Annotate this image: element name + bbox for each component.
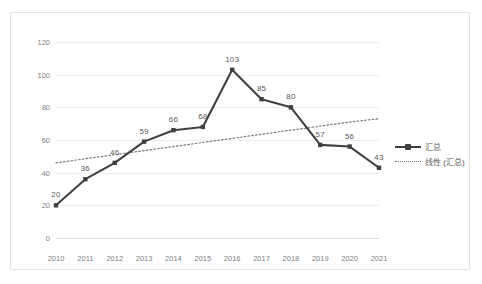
x-axis-tick-label: 2012 [106, 254, 123, 263]
x-axis-tick-label: 2010 [48, 254, 65, 263]
x-axis-tick-labels: 2010201120122013201420152016201720182019… [56, 254, 379, 268]
legend-item-trendline[interactable]: 线性 (汇总) [395, 154, 481, 169]
x-axis-tick-label: 2011 [77, 254, 93, 263]
x-axis-tick-label: 2013 [136, 254, 153, 263]
data-point-label: 103 [225, 55, 239, 64]
series-plot [56, 42, 379, 238]
x-axis-tick-label: 2018 [283, 254, 300, 263]
y-axis-tick-label: 20 [42, 201, 50, 210]
data-point-marker [230, 68, 234, 72]
legend-item-total[interactable]: 汇总 [395, 139, 481, 154]
chart-container[interactable]: 020406080100120 203646596668103858057564… [10, 12, 470, 270]
x-axis-tick-label: 2016 [224, 254, 241, 263]
y-axis-tick-label: 100 [37, 70, 50, 79]
legend-item-label: 线性 (汇总) [425, 156, 465, 167]
y-axis-tick-label: 120 [37, 38, 50, 47]
series-markers [54, 68, 381, 208]
data-point-marker [289, 105, 293, 109]
data-point-label: 46 [110, 148, 119, 157]
legend-item-label: 汇总 [425, 141, 441, 152]
x-axis-tick-label: 2021 [371, 254, 388, 263]
legend-dotted-line-icon [395, 157, 421, 167]
data-point-marker [83, 177, 87, 181]
data-point-marker [318, 143, 322, 147]
data-point-label: 80 [286, 92, 295, 101]
trendline-linear-total [56, 119, 379, 163]
data-point-label: 57 [316, 130, 325, 139]
data-point-marker [347, 144, 351, 148]
x-axis-tick-label: 2014 [165, 254, 182, 263]
data-point-marker [201, 125, 205, 129]
y-axis-tick-label: 40 [42, 168, 50, 177]
data-point-marker [377, 166, 381, 170]
data-point-label: 43 [374, 153, 383, 162]
data-point-label: 85 [257, 84, 266, 93]
x-axis-tick-label: 2019 [312, 254, 329, 263]
plot-area[interactable]: 020406080100120 203646596668103858057564… [56, 42, 379, 238]
series-line-total [56, 70, 379, 206]
data-point-marker [113, 161, 117, 165]
data-point-label: 68 [198, 112, 207, 121]
y-axis-tick-label: 80 [42, 103, 50, 112]
data-point-label: 56 [345, 132, 354, 141]
data-point-marker [142, 139, 146, 143]
data-point-marker [171, 128, 175, 132]
data-point-label: 66 [169, 115, 178, 124]
y-axis-tick-label: 60 [42, 136, 50, 145]
data-point-marker [259, 97, 263, 101]
y-axis-tick-label: 0 [46, 234, 50, 243]
data-point-label: 20 [51, 190, 60, 199]
data-point-label: 36 [81, 164, 90, 173]
data-point-marker [54, 203, 58, 207]
gridline [56, 238, 379, 239]
data-point-label: 59 [139, 127, 148, 136]
x-axis-tick-label: 2017 [253, 254, 270, 263]
x-axis-tick-label: 2015 [194, 254, 211, 263]
chart-legend[interactable]: 汇总 线性 (汇总) [395, 139, 481, 169]
x-axis-tick-label: 2020 [341, 254, 358, 263]
legend-line-marker-icon [395, 142, 421, 152]
